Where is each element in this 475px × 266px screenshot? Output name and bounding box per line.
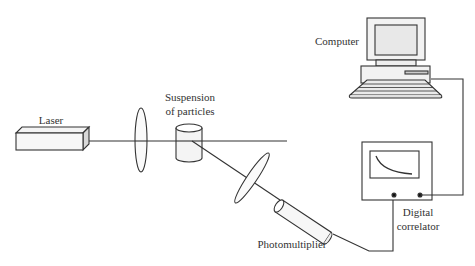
suspension-label-line1: Suspension: [165, 91, 215, 104]
scattered-beam: [192, 141, 280, 200]
photomultiplier-label: Photomultiplier: [257, 238, 326, 251]
computer-label: Computer: [315, 35, 359, 48]
diagram-canvas: Laser Suspension of particles Photomulti…: [0, 0, 475, 266]
pmt-cable: [333, 195, 393, 251]
laser-icon: [16, 127, 89, 150]
correlator-label-line1: Digital: [403, 206, 434, 219]
correlator-label-line2: correlator: [397, 220, 440, 233]
sample-cell-icon: [176, 124, 202, 162]
computer-icon: [349, 18, 441, 98]
suspension-label-line2: of particles: [165, 105, 214, 118]
lens-2-icon: [231, 150, 273, 205]
correlator-input-port: [392, 193, 396, 197]
lens-1-icon: [135, 108, 147, 172]
laser-label: Laser: [39, 114, 63, 127]
correlator-icon: [362, 142, 432, 200]
